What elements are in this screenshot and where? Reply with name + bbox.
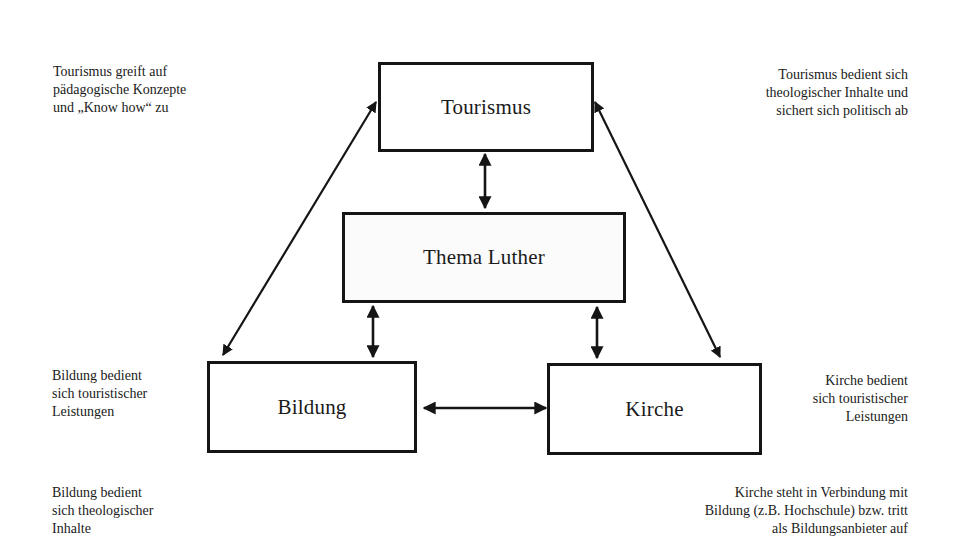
node-tourismus: Tourismus (378, 62, 594, 152)
node-label-bildung: Bildung (277, 395, 346, 420)
annotation-bottom-left: Bildung bedient sich theologischer Inhal… (52, 484, 153, 538)
node-thema-luther: Thema Luther (342, 212, 626, 303)
node-bildung: Bildung (207, 361, 417, 453)
annotation-bottom-right: Kirche steht in Verbindung mit Bildung (… (705, 484, 908, 538)
node-label-thema-luther: Thema Luther (423, 245, 545, 270)
annotation-mid-left: Bildung bedient sich touristischer Leist… (52, 367, 147, 421)
annotation-mid-right: Kirche bedient sich touristischer Leistu… (813, 372, 908, 426)
annotation-top-right: Tourismus bedient sich theologischer Inh… (766, 66, 908, 120)
node-label-tourismus: Tourismus (441, 95, 531, 120)
node-kirche: Kirche (547, 363, 762, 455)
annotation-top-left: Tourismus greift auf pädagogische Konzep… (53, 63, 186, 117)
node-label-kirche: Kirche (625, 397, 683, 422)
